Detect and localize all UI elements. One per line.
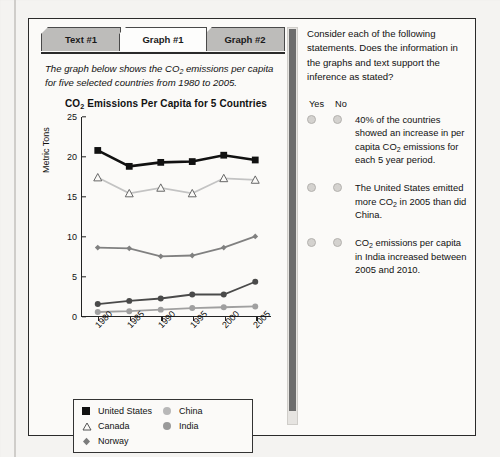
data-point — [252, 279, 258, 285]
radio-no-2[interactable] — [333, 183, 342, 192]
y-tick-label: 25 — [67, 112, 82, 122]
chart-legend: United StatesChinaCanadaIndiaNorway — [73, 399, 253, 453]
legend-item-label: Canada — [98, 421, 130, 431]
data-point — [221, 304, 227, 310]
y-tick-mark — [82, 156, 86, 157]
data-point — [189, 291, 195, 297]
tab-graph-1[interactable]: Graph #1 — [119, 27, 207, 51]
series-line-china — [98, 282, 256, 304]
intro-subscript: 2 — [179, 68, 183, 75]
radio-yes-2[interactable] — [307, 183, 316, 192]
statement-row: CO2 emissions per capita in India increa… — [307, 236, 467, 277]
open-triangle-icon — [82, 422, 96, 431]
y-axis-label: Metric Tons — [41, 127, 51, 173]
legend-item-label: India — [179, 421, 199, 431]
data-point — [252, 303, 258, 309]
filled-circle-icon — [163, 407, 177, 415]
series-line-canada — [98, 177, 256, 193]
legend-item: China — [163, 406, 244, 416]
data-point — [126, 298, 132, 304]
legend-item-label: China — [179, 406, 203, 416]
y-tick-mark — [82, 116, 86, 117]
intro-text-part-1: The graph below shows the CO — [45, 63, 179, 74]
statement-subscript: 2 — [369, 242, 373, 249]
stimulus-pane: Text #1 Graph #2 Graph #1 The graph belo… — [37, 27, 285, 427]
plot-area-outer: Metric Tons 0510152025198019851990199520… — [37, 115, 285, 345]
chart: CO2 Emissions Per Capita for 5 Countries… — [37, 98, 285, 366]
filled-square-icon — [82, 407, 96, 415]
tab-text-1[interactable]: Text #1 — [41, 27, 121, 51]
chart-title-subscript: 2 — [80, 102, 84, 111]
data-point — [158, 295, 164, 301]
radio-yes-3[interactable] — [307, 238, 316, 247]
series-line-united-states — [98, 150, 256, 166]
scrollbar-thumb[interactable] — [289, 29, 296, 411]
radio-yes-1[interactable] — [307, 115, 316, 124]
legend-item: Canada — [82, 421, 163, 431]
intro-text: The graph below shows the CO2 emissions … — [45, 62, 279, 90]
chart-title-part-1: CO — [65, 98, 80, 109]
tab-strip: Text #1 Graph #2 Graph #1 — [41, 27, 285, 53]
legend-item-label: Norway — [98, 436, 129, 446]
statement-row: The United States emitted more CO2 in 20… — [307, 181, 467, 222]
statement-text-part-1: CO — [355, 237, 369, 248]
data-point — [189, 158, 196, 165]
data-point — [126, 163, 133, 170]
statement-text: CO2 emissions per capita in India increa… — [355, 236, 467, 277]
data-point — [158, 306, 164, 312]
legend-item: United States — [82, 406, 163, 416]
question-prompt: Consider each of the following statement… — [307, 27, 467, 85]
statement-row: 40% of the countries showed an increase … — [307, 113, 467, 168]
y-tick-mark — [82, 236, 86, 237]
y-tick-label: 20 — [67, 152, 82, 162]
diamond-icon — [82, 437, 96, 446]
vertical-scrollbar[interactable] — [287, 27, 298, 425]
chart-title: CO2 Emissions Per Capita for 5 Countries — [47, 98, 285, 109]
statement-text: 40% of the countries showed an increase … — [355, 113, 467, 168]
legend-item: India — [163, 421, 244, 431]
tab-underline — [41, 52, 285, 54]
radio-no-1[interactable] — [333, 115, 342, 124]
legend-item: Norway — [82, 436, 163, 446]
y-tick-label: 10 — [67, 232, 82, 242]
y-tick-mark — [82, 316, 86, 317]
radio-no-3[interactable] — [333, 238, 342, 247]
yes-no-header: Yes No — [309, 99, 467, 109]
data-point — [94, 147, 101, 154]
data-point — [126, 245, 132, 251]
data-point — [221, 244, 227, 250]
data-point — [94, 173, 102, 180]
no-column-label: No — [335, 99, 347, 109]
tab-text-1-label: Text #1 — [65, 34, 97, 45]
data-point — [126, 308, 132, 314]
series-lines — [82, 117, 271, 316]
document-frame: Text #1 Graph #2 Graph #1 The graph belo… — [28, 18, 476, 436]
data-point — [221, 291, 227, 297]
y-tick-label: 5 — [72, 272, 82, 282]
y-tick-mark — [82, 196, 86, 197]
statement-subscript: 2 — [393, 201, 397, 208]
tab-graph-1-label: Graph #1 — [142, 34, 183, 45]
data-point — [95, 301, 101, 307]
question-pane: Consider each of the following statement… — [307, 27, 467, 291]
chart-title-part-2: Emissions Per Capita for 5 Countries — [84, 98, 267, 109]
data-point — [252, 156, 259, 163]
y-tick-label: 0 — [72, 312, 82, 322]
data-point — [95, 309, 101, 315]
page-gutter-line — [14, 0, 16, 457]
tab-graph-2-label: Graph #2 — [224, 34, 265, 45]
data-point — [252, 233, 258, 239]
data-point — [158, 253, 164, 259]
plot-area: 0510152025198019851990199520002005 — [81, 117, 271, 317]
data-point — [189, 252, 195, 258]
filled-circle-icon — [163, 422, 177, 430]
data-point — [95, 244, 101, 250]
y-tick-label: 15 — [67, 192, 82, 202]
statement-text: The United States emitted more CO2 in 20… — [355, 181, 467, 222]
data-point — [220, 152, 227, 159]
legend-item-label: United States — [98, 406, 152, 416]
series-line-norway — [98, 236, 256, 256]
tab-graph-2[interactable]: Graph #2 — [205, 27, 285, 51]
data-point — [189, 305, 195, 311]
data-point — [157, 159, 164, 166]
